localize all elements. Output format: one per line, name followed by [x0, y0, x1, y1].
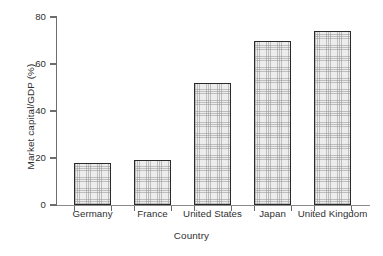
x-tick-mark: [291, 206, 292, 211]
y-tick-label: 0: [0, 199, 46, 210]
bar-chart-figure: 020406080 GermanyFranceUnited StatesJapa…: [0, 0, 383, 256]
y-tick-label: 40: [0, 105, 46, 116]
bar: [134, 160, 171, 205]
x-axis-category-label: France: [137, 208, 167, 219]
bar: [194, 83, 231, 205]
y-tick-mark: [50, 157, 57, 158]
x-axis-category-label: Japan: [259, 208, 286, 219]
y-tick-mark: [50, 63, 57, 64]
y-tick-mark: [50, 16, 57, 17]
y-tick-label: 20: [0, 152, 46, 163]
plot-area: [57, 14, 365, 205]
x-tick-mark: [254, 206, 255, 211]
bar: [74, 163, 111, 205]
x-axis-category-label: United States: [183, 208, 242, 219]
y-axis-title: Market capital/GDP (%): [25, 47, 36, 187]
x-axis-title: Country: [0, 230, 383, 241]
x-tick-mark: [134, 206, 135, 211]
y-tick-label: 60: [0, 58, 46, 69]
y-tick-label: 80: [0, 11, 46, 22]
bar: [254, 41, 291, 206]
y-tick-mark: [50, 110, 57, 111]
x-axis-category-label: United Kingdom: [298, 208, 368, 219]
y-tick-mark: [50, 204, 57, 205]
x-axis-category-label: Germany: [72, 208, 112, 219]
bar: [314, 31, 351, 205]
x-tick-mark: [171, 206, 172, 211]
